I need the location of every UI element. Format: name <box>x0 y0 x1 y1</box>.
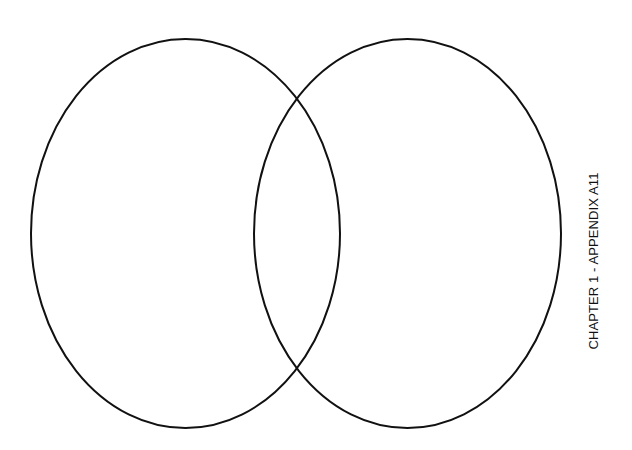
venn-right-ellipse <box>254 39 561 428</box>
venn-left-ellipse <box>31 39 340 428</box>
appendix-label: CHAPTER 1 - APPENDIX A11 <box>586 173 601 350</box>
venn-diagram <box>0 0 632 450</box>
